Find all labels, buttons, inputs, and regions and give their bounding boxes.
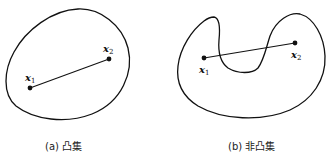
point-x1 (28, 86, 33, 91)
segment-x1-x2 (204, 43, 295, 58)
caption-nonconvex: (b) 非凸集 (228, 138, 275, 153)
label-x2: x2 (102, 43, 113, 56)
figure-canvas: x1 x2 x1 x2 (0, 0, 332, 159)
label-x1: x1 (24, 72, 35, 85)
point-x1 (202, 56, 207, 61)
label-x2: x2 (290, 49, 301, 62)
caption-convex: (a) 凸集 (45, 138, 82, 153)
segment-x1-x2 (30, 59, 109, 88)
panel-nonconvex: x1 x2 (178, 14, 325, 118)
point-x2 (107, 57, 112, 62)
label-x1: x1 (198, 64, 209, 77)
panel-convex: x1 x2 (6, 9, 130, 120)
point-x2 (293, 41, 298, 46)
convex-set-boundary (6, 9, 130, 120)
